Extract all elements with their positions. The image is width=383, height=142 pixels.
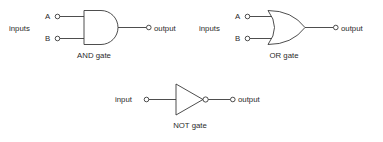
or-gate-caption: OR gate [269, 51, 298, 60]
not-output-terminal[interactable] [231, 97, 236, 102]
not-gate-symbol [176, 84, 203, 115]
and-output-terminal[interactable] [147, 25, 152, 30]
not-gate-caption: NOT gate [173, 121, 207, 130]
logic-gate-diagram: inputs A B output AND gate inputs A B ou… [0, 0, 383, 142]
and-gate-symbol [84, 11, 118, 45]
not-output-label: output [238, 95, 261, 104]
not-input-terminal[interactable] [144, 97, 149, 102]
or-input-a-label: A [235, 12, 241, 21]
and-inputs-label: inputs [9, 24, 30, 33]
and-gate-caption: AND gate [77, 51, 111, 60]
and-input-a-label: A [45, 12, 51, 21]
and-input-b-label: B [45, 34, 50, 43]
and-input-a-terminal[interactable] [55, 14, 60, 19]
or-gate-group: inputs A B output OR gate [199, 11, 364, 61]
and-gate-group: inputs A B output AND gate [9, 11, 177, 61]
not-input-label: input [115, 95, 133, 104]
or-input-a-terminal[interactable] [245, 14, 250, 19]
or-output-label: output [341, 24, 364, 33]
or-inputs-label: inputs [199, 24, 220, 33]
or-input-b-label: B [235, 34, 240, 43]
or-gate-symbol [268, 11, 305, 45]
and-output-label: output [154, 24, 177, 33]
or-input-b-terminal[interactable] [245, 36, 250, 41]
diagram-canvas: inputs A B output AND gate inputs A B ou… [0, 0, 383, 142]
or-output-terminal[interactable] [334, 25, 339, 30]
not-gate-group: input output NOT gate [115, 84, 261, 130]
not-inversion-bubble-icon [203, 97, 208, 102]
and-input-b-terminal[interactable] [55, 36, 60, 41]
